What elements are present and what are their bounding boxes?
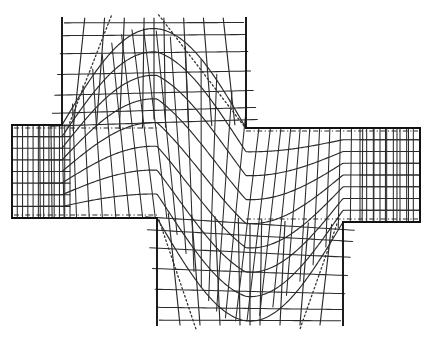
separatrix-top-left [68,14,112,127]
separatrix-bottom-left [159,220,196,329]
streamlines [12,18,420,325]
channel-walls [12,18,420,325]
flow-net-diagram [0,0,434,338]
figure-root [0,0,434,338]
